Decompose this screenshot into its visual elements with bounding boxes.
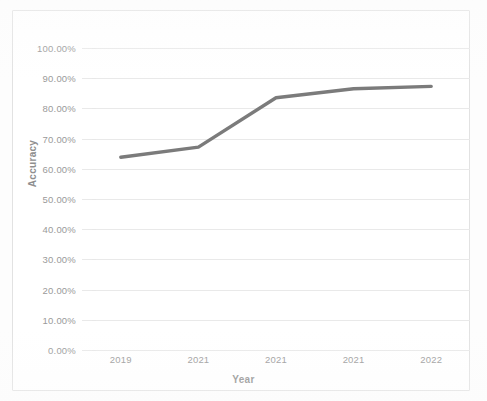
x-axis-tick-labels: 20192021202120212022 [82,354,470,372]
plot-area [82,48,470,350]
y-axis-tick-label: 60.00% [43,163,76,174]
y-axis-tick-labels: 0.00%10.00%20.00%30.00%40.00%50.00%60.00… [14,48,76,350]
y-axis-tick-label: 80.00% [43,103,76,114]
x-axis-tick-label: 2022 [420,354,442,365]
y-axis-tick-label: 30.00% [43,254,76,265]
y-axis-tick-label: 10.00% [43,314,76,325]
y-axis-tick-label: 0.00% [48,345,76,356]
x-axis-tick-label: 2021 [265,354,287,365]
accuracy-by-year-line-chart: 0.00%10.00%20.00%30.00%40.00%50.00%60.00… [0,0,487,401]
x-axis-tick-label: 2019 [110,354,132,365]
y-axis-tick-label: 20.00% [43,284,76,295]
y-axis-tick-label: 50.00% [43,194,76,205]
y-axis-tick-label: 100.00% [37,43,76,54]
y-axis-tick-label: 70.00% [43,133,76,144]
y-axis-title: Accuracy [27,124,38,204]
x-axis-tick-label: 2021 [187,354,209,365]
y-axis-tick-label: 40.00% [43,224,76,235]
x-axis-tick-label: 2021 [343,354,365,365]
x-axis-title: Year [0,374,487,385]
accuracy-series-line [82,48,470,350]
y-axis-tick-label: 90.00% [43,73,76,84]
gridline [82,350,470,351]
accuracy-polyline [121,86,431,157]
